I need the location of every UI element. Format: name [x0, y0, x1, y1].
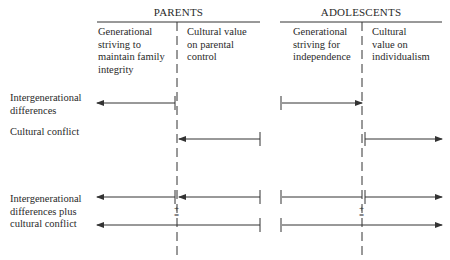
diagram-lines	[0, 0, 450, 260]
